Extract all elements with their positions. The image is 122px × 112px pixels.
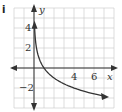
x-axis-left-arrow-icon [10,65,17,71]
y-axis-down-arrow-icon [31,103,37,111]
x-tick-label: 6 [91,72,97,82]
y-tick-label: 4 [25,23,31,33]
curve-end-arrow-icon [101,93,109,100]
x-tick-label: 4 [71,72,77,82]
graph [0,0,122,112]
y-tick-label: −2 [19,83,34,93]
y-tick-label: 2 [25,43,31,53]
x-axis-label: x [107,72,113,82]
function-curve [35,25,105,96]
y-axis [31,4,37,111]
curve-top-arrow-icon [32,21,38,29]
y-axis-label: y [39,5,45,15]
